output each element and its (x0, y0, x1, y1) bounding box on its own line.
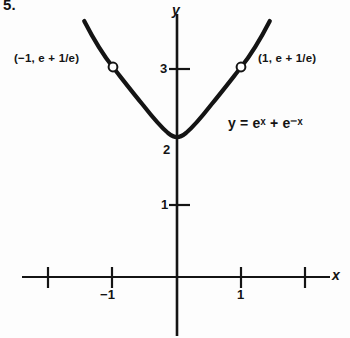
x-axis-label: x (332, 267, 340, 283)
point-marker-right (237, 63, 246, 72)
x-tick-label-1: 1 (237, 287, 244, 302)
y-tick-label-2: 2 (163, 142, 170, 157)
y-tick-label-3: 3 (160, 61, 167, 76)
y-axis-label: y (172, 2, 180, 18)
figure-canvas: 5. (−1, e + 1/e) (1, e + 1/e) y = eˣ + e… (0, 0, 350, 338)
point-marker-left (109, 63, 118, 72)
problem-number: 5. (3, 0, 16, 13)
x-tick-label--1: −1 (100, 287, 115, 302)
left-point-annotation: (−1, e + 1/e) (14, 52, 79, 64)
y-tick-label-1: 1 (161, 197, 168, 212)
graph-plot (0, 0, 350, 338)
equation-annotation: y = eˣ + e⁻ˣ (228, 115, 303, 131)
right-point-annotation: (1, e + 1/e) (258, 52, 316, 64)
